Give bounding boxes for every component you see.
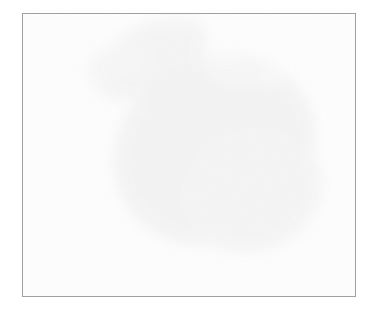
caption (22, 300, 356, 320)
micrograph-image (23, 14, 355, 296)
micrograph-frame (22, 13, 356, 297)
film-grain-overlay (23, 14, 355, 296)
micrograph-figure (0, 0, 380, 323)
